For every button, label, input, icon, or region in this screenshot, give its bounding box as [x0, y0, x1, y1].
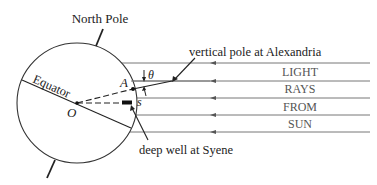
vertical-pole-label: vertical pole at Alexandria: [189, 45, 322, 59]
arrowhead-icon: [210, 130, 216, 134]
south-pole-axis: [47, 160, 55, 178]
angle-label-theta: θ: [148, 68, 154, 82]
ray-text-light: LIGHT: [282, 65, 319, 79]
syene-well-mark: [122, 101, 132, 105]
ray-text-rays: RAYS: [285, 82, 316, 96]
pole-label-leader: [174, 58, 195, 80]
alexandria-pole-line: [133, 81, 172, 89]
point-a: [131, 87, 135, 91]
arrowhead-icon: [210, 96, 216, 100]
arrowhead-icon: [210, 61, 216, 65]
arrowhead-icon: [210, 113, 216, 117]
north-pole-label: North Pole: [72, 11, 129, 26]
point-label-s: s: [137, 95, 142, 109]
ray-text-sun: SUN: [288, 117, 312, 131]
deep-well-label: deep well at Syene: [139, 143, 234, 157]
arrowhead-icon: [210, 79, 216, 83]
eratosthenes-diagram: LIGHT RAYS FROM SUN North Pole Equator O…: [0, 0, 377, 185]
sun-rays: [120, 63, 370, 132]
well-label-leader: [132, 108, 148, 140]
north-pole-axis: [96, 29, 103, 46]
center-label-o: O: [67, 105, 77, 120]
ray-text-from: FROM: [283, 100, 317, 114]
point-label-a: A: [119, 75, 128, 90]
